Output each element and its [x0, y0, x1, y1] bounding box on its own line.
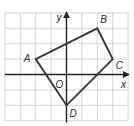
vertex-label-b: B — [100, 14, 107, 25]
origin-label: O — [56, 79, 64, 90]
x-axis-label: x — [120, 79, 127, 90]
vertex-label-a: A — [23, 53, 31, 64]
vertex-label-c: C — [116, 60, 124, 71]
vertex-labels: ABCD — [23, 14, 124, 119]
quadrilateral-abcd — [36, 28, 113, 105]
coordinate-plane: x y O ABCD — [0, 0, 134, 126]
y-axis-label: y — [56, 12, 63, 23]
vertex-label-d: D — [70, 108, 77, 119]
